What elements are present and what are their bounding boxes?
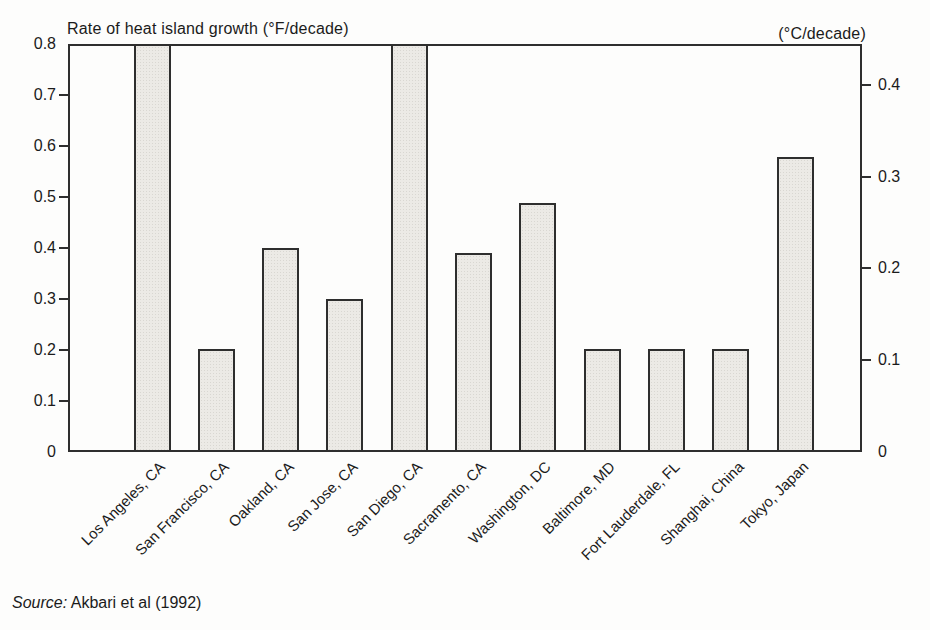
bar-fort-lauderdale-fl bbox=[648, 349, 685, 450]
right-axis-tick-label: 0.4 bbox=[878, 75, 926, 95]
chart-title-right-axis-units: (°C/decade) bbox=[778, 25, 866, 43]
left-axis-tick bbox=[59, 349, 68, 351]
left-axis-tick-label: 0.2 bbox=[8, 340, 56, 360]
left-axis-tick-label: 0.8 bbox=[8, 34, 56, 54]
bar-shanghai-china bbox=[712, 349, 749, 450]
right-axis-tick bbox=[862, 176, 871, 178]
chart-title-left-axis-units: Rate of heat island growth (°F/decade) bbox=[67, 20, 349, 38]
bar-baltimore-md bbox=[584, 349, 621, 450]
source-label: Source: bbox=[12, 594, 67, 611]
right-axis-tick-label: 0.2 bbox=[878, 258, 926, 278]
left-axis-tick-label: 0.6 bbox=[8, 136, 56, 156]
left-axis-tick bbox=[59, 400, 68, 402]
left-axis-tick-label: 0.4 bbox=[8, 238, 56, 258]
bar-los-angeles-ca bbox=[134, 46, 171, 450]
left-axis-tick-label: 0.1 bbox=[8, 391, 56, 411]
left-axis-tick bbox=[59, 145, 68, 147]
right-axis-tick bbox=[862, 267, 871, 269]
right-axis-tick-label: 0.3 bbox=[878, 167, 926, 187]
source-citation: Source: Akbari et al (1992) bbox=[12, 594, 201, 612]
left-axis-tick bbox=[59, 94, 68, 96]
left-axis-tick-label: 0 bbox=[8, 442, 56, 462]
bar-san-diego-ca bbox=[391, 46, 428, 450]
bar-washington-dc bbox=[519, 203, 556, 450]
left-axis-tick bbox=[59, 247, 68, 249]
left-axis-tick bbox=[59, 196, 68, 198]
left-axis-tick-label: 0.7 bbox=[8, 85, 56, 105]
left-axis-tick-label: 0.5 bbox=[8, 187, 56, 207]
right-axis-tick-label: 0 bbox=[878, 442, 926, 462]
heat-island-growth-chart: Rate of heat island growth (°F/decade) (… bbox=[0, 0, 930, 630]
left-axis-tick bbox=[59, 298, 68, 300]
bar-tokyo-japan bbox=[777, 157, 814, 450]
right-axis-tick-label: 0.1 bbox=[878, 350, 926, 370]
x-axis-category-text: Tokyo, Japan bbox=[736, 458, 811, 533]
bar-san-jose-ca bbox=[326, 299, 363, 451]
plot-area bbox=[68, 44, 862, 452]
right-axis-tick bbox=[862, 359, 871, 361]
bar-sacramento-ca bbox=[455, 253, 492, 450]
source-text: Akbari et al (1992) bbox=[71, 594, 202, 611]
bar-oakland-ca bbox=[262, 248, 299, 450]
bar-san-francisco-ca bbox=[198, 349, 235, 450]
right-axis-tick bbox=[862, 84, 871, 86]
left-axis-tick-label: 0.3 bbox=[8, 289, 56, 309]
